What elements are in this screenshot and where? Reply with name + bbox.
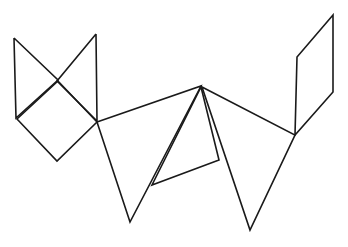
line-drawing-canvas — [0, 0, 348, 247]
polygon-figure — [0, 0, 348, 247]
